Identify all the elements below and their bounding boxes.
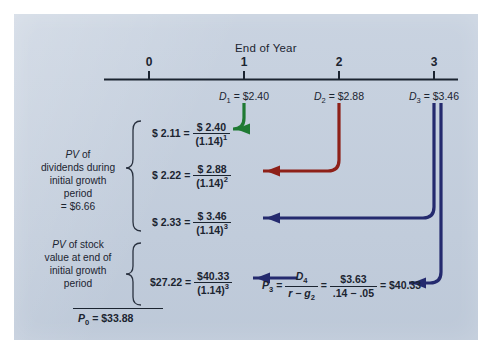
gordon-denominator-symbolic: r − g2 — [285, 287, 318, 303]
dividend-1-equals: = — [234, 90, 240, 102]
tick-label-0: 0 — [137, 55, 161, 69]
stock-value-label-line3: initial growth — [50, 265, 107, 276]
dividend-3-value: $3.46 — [433, 90, 459, 102]
pv-equation-row-2: $ 2.22 = $ 2.88 (1.14)2 — [152, 163, 231, 189]
pv-denominator-4: (1.14)3 — [194, 283, 232, 296]
tick-label-1: 1 — [232, 55, 256, 69]
tick-label-3: 3 — [422, 55, 446, 69]
dividend-3-arrowhead — [266, 213, 280, 224]
gordon-result: $40.33 — [389, 279, 421, 291]
gordon-denominator-numeric: .14 − .05 — [330, 287, 377, 299]
gordon-equals-3: = — [380, 279, 386, 291]
pv-value-1: $ 2.11 — [152, 127, 181, 139]
pv-equals-4: = — [185, 276, 191, 288]
p0-symbol: P — [78, 312, 85, 324]
pv-numerator-1: $ 2.40 — [193, 121, 231, 134]
dividend-3-subscript: 3 — [417, 96, 421, 105]
dividend-3-equals: = — [424, 90, 430, 102]
dividends-label-of: of — [79, 149, 90, 160]
gordon-numerator-symbolic: D4 — [285, 270, 318, 287]
dividend-label-1: D1 = $2.40 — [189, 90, 299, 106]
dividends-brace-label: PV of dividends during initial growth pe… — [26, 148, 130, 213]
p3-symbol: P — [262, 279, 269, 291]
pv-numerator-4: $40.33 — [194, 270, 232, 283]
dividend-1-value: $2.40 — [243, 90, 269, 102]
pv-exponent-3: 3 — [224, 222, 228, 231]
pv-fraction-4: $40.33 (1.14)3 — [194, 270, 232, 296]
dividends-label-total: = $6.66 — [61, 201, 95, 212]
gordon-equals-1: = — [276, 279, 282, 291]
pv-equation-row-1: $ 2.11 = $ 2.40 (1.14)1 — [152, 121, 230, 147]
dividends-label-pv: PV — [66, 149, 80, 160]
timeline-axis-label: End of Year — [235, 42, 297, 56]
dividend-1-symbol: D — [219, 90, 227, 102]
dividend-label-3: D3 = $3.46 — [379, 90, 489, 106]
dividend-2-arrow — [263, 103, 339, 171]
dividend-1-arrow — [233, 103, 246, 129]
p0-subscript: 0 — [85, 318, 89, 327]
pv-fraction-2: $ 2.88 (1.14)2 — [193, 163, 231, 189]
dividend-1-subscript: 1 — [227, 96, 231, 105]
dividend-3-symbol: D — [409, 90, 417, 102]
tick-label-2: 2 — [327, 55, 351, 69]
pv-value-3: $ 2.33 — [152, 216, 181, 228]
stock-value-label-line4: period — [64, 278, 92, 289]
pv-fraction-3: $ 3.46 (1.14)3 — [193, 210, 231, 236]
terminal-value-arrow — [409, 103, 441, 283]
p3-subscript: 3 — [269, 285, 273, 294]
dividend-2-equals: = — [329, 90, 335, 102]
total-present-value: P0 = $33.88 — [78, 312, 133, 328]
pv-exponent-1: 1 — [223, 133, 227, 142]
dividends-label-line2: dividends during — [41, 162, 115, 173]
pv-denominator-1: (1.14)1 — [193, 134, 231, 147]
gordon-fraction-numeric: $3.63 .14 − .05 — [330, 273, 377, 299]
gordon-equals-2: = — [321, 279, 327, 291]
dividends-label-line4: period — [64, 188, 92, 199]
gordon-growth-formula: P3 = D4 r − g2 = $3.63 .14 − .05 = $40.3… — [262, 270, 421, 303]
dividend-2-subscript: 2 — [322, 96, 326, 105]
pv-equation-row-4: $27.22 = $40.33 (1.14)3 — [150, 270, 232, 296]
pv-exponent-2: 2 — [224, 175, 228, 184]
pv-value-2: $ 2.22 — [152, 169, 181, 181]
pv-equation-row-3: $ 2.33 = $ 3.46 (1.14)3 — [152, 210, 231, 236]
stock-value-label-pv: PV — [52, 239, 66, 250]
pv-denominator-2: (1.14)2 — [193, 176, 231, 189]
pv-exponent-4: 3 — [225, 282, 229, 291]
dividend-3-arrow — [263, 103, 434, 218]
pv-numerator-3: $ 3.46 — [193, 210, 231, 223]
dividend-label-2: D2 = $2.88 — [284, 90, 394, 106]
total-sum-rule — [73, 308, 163, 309]
stock-valuation-timeline-figure: End of Year 0 1 2 3 D1 = $2.40 D2 = $2.8… — [0, 0, 495, 355]
pv-equals-1: = — [184, 127, 190, 139]
total-equals: = — [92, 312, 98, 324]
total-value: $33.88 — [101, 312, 133, 324]
dividends-label-line3: initial growth — [50, 175, 107, 186]
pv-fraction-1: $ 2.40 (1.14)1 — [193, 121, 231, 147]
stock-value-brace-label: PV of stock value at end of initial grow… — [26, 238, 130, 290]
stock-value-label-line2: value at end of — [45, 252, 112, 263]
dividend-2-symbol: D — [314, 90, 322, 102]
pv-numerator-2: $ 2.88 — [193, 163, 231, 176]
dividend-2-value: $2.88 — [338, 90, 364, 102]
pv-equals-2: = — [184, 169, 190, 181]
pv-denominator-3: (1.14)3 — [193, 223, 231, 236]
gordon-fraction-symbolic: D4 r − g2 — [285, 270, 318, 303]
pv-equals-3: = — [184, 216, 190, 228]
dividend-2-arrowhead — [266, 166, 280, 177]
gordon-numerator-numeric: $3.63 — [330, 273, 377, 286]
stock-value-label-rest: of stock — [66, 239, 104, 250]
pv-value-4: $27.22 — [150, 276, 182, 288]
